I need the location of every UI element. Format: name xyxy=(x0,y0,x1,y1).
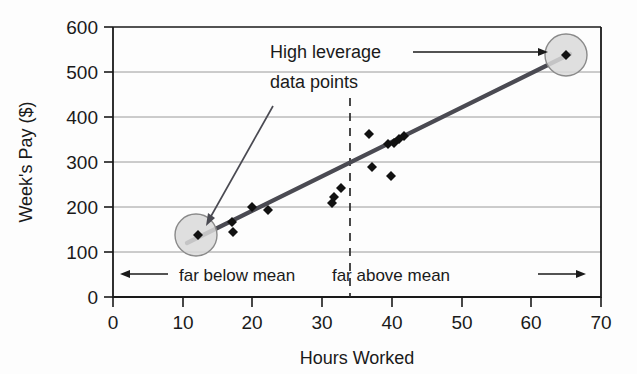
y-tick-label-100: 100 xyxy=(66,242,98,263)
x-tick-label-10: 10 xyxy=(172,312,193,333)
x-tick-label-0: 0 xyxy=(108,312,119,333)
x-tick-label-70: 70 xyxy=(590,312,611,333)
y-tick-label-500: 500 xyxy=(66,62,98,83)
y-axis-title: Week's Pay ($) xyxy=(16,101,36,222)
x-tick-label-20: 20 xyxy=(241,312,262,333)
far-above-mean-label: far above mean xyxy=(332,266,450,285)
y-tick-label-400: 400 xyxy=(66,107,98,128)
x-tick-label-50: 50 xyxy=(451,312,472,333)
y-tick-label-600: 600 xyxy=(66,17,98,38)
annotation-line-1: High leverage xyxy=(270,42,381,62)
y-tick-label-200: 200 xyxy=(66,197,98,218)
x-tick-label-40: 40 xyxy=(381,312,402,333)
scatter-plot-svg: 600 500 400 300 200 100 0 0 10 20 30 40 … xyxy=(0,0,637,374)
x-tick-label-30: 30 xyxy=(311,312,332,333)
chart-figure: 600 500 400 300 200 100 0 0 10 20 30 40 … xyxy=(0,0,637,374)
x-tick-label-60: 60 xyxy=(520,312,541,333)
y-tick-label-0: 0 xyxy=(87,287,98,308)
x-axis-title: Hours Worked xyxy=(300,348,415,368)
y-tick-label-300: 300 xyxy=(66,152,98,173)
annotation-line-2: data points xyxy=(270,72,358,92)
far-below-mean-label: far below mean xyxy=(179,266,295,285)
